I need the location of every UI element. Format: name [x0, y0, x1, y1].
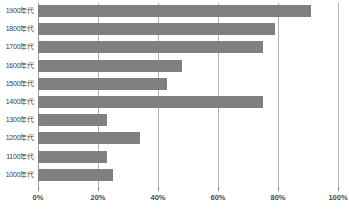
bar-row — [38, 114, 107, 126]
gridline-100 — [338, 3, 339, 187]
y-axis-label-1100年代: 1100年代 — [0, 151, 34, 163]
y-axis-label-1800年代: 1800年代 — [0, 23, 34, 35]
bar-row — [38, 169, 113, 181]
x-axis-label-40: 40% — [138, 193, 178, 202]
bar-1300年代 — [38, 114, 107, 126]
y-axis-label-1200年代: 1200年代 — [0, 132, 34, 144]
y-axis-label-1400年代: 1400年代 — [0, 96, 34, 108]
x-axis-tick-0 — [38, 187, 39, 191]
x-axis-tick-100 — [338, 187, 339, 191]
bar-1200年代 — [38, 132, 140, 144]
y-axis-label-1600年代: 1600年代 — [0, 60, 34, 72]
bar-row — [38, 23, 275, 35]
bar-1000年代 — [38, 169, 113, 181]
bar-row — [38, 60, 182, 72]
bar-1100年代 — [38, 151, 107, 163]
horizontal-bar-chart: 1900年代1800年代1700年代1600年代1500年代1400年代1300… — [0, 0, 349, 219]
x-axis-tick-40 — [158, 187, 159, 191]
x-axis-label-80: 80% — [258, 193, 298, 202]
y-axis-label-1000年代: 1000年代 — [0, 169, 34, 181]
x-axis-label-60: 60% — [198, 193, 238, 202]
x-axis-tick-20 — [98, 187, 99, 191]
y-axis-label-1700年代: 1700年代 — [0, 41, 34, 53]
bar-row — [38, 132, 140, 144]
bar-1700年代 — [38, 41, 263, 53]
bar-row — [38, 96, 263, 108]
bar-1400年代 — [38, 96, 263, 108]
bar-1900年代 — [38, 5, 311, 17]
gridline-80 — [278, 3, 279, 187]
y-axis-label-1900年代: 1900年代 — [0, 5, 34, 17]
x-axis-tick-60 — [218, 187, 219, 191]
y-axis-label-1500年代: 1500年代 — [0, 78, 34, 90]
bar-row — [38, 41, 263, 53]
bar-row — [38, 78, 167, 90]
y-axis-label-1300年代: 1300年代 — [0, 114, 34, 126]
bar-1600年代 — [38, 60, 182, 72]
bar-1500年代 — [38, 78, 167, 90]
bar-1800年代 — [38, 23, 275, 35]
x-axis-label-100: 100% — [318, 193, 349, 202]
x-axis-label-20: 20% — [78, 193, 118, 202]
x-axis-tick-80 — [278, 187, 279, 191]
x-axis-label-0: 0% — [18, 193, 58, 202]
bar-row — [38, 151, 107, 163]
bar-row — [38, 5, 311, 17]
